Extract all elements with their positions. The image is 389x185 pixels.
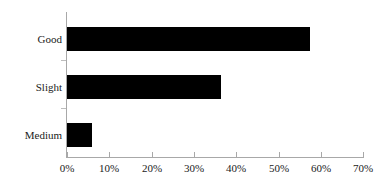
x-axis-tick bbox=[321, 152, 322, 157]
y-axis-tick bbox=[61, 108, 66, 109]
y-axis-label-good: Good bbox=[0, 34, 62, 45]
x-axis-tick-label: 70% bbox=[343, 163, 383, 174]
x-axis-tick-label-text: 20% bbox=[142, 162, 162, 174]
bar-slight bbox=[67, 75, 221, 99]
x-axis-tick bbox=[109, 152, 110, 157]
y-axis-label-text: Slight bbox=[36, 81, 62, 93]
bar-medium bbox=[67, 123, 92, 147]
x-axis-tick-label: 0% bbox=[47, 163, 87, 174]
x-axis-tick bbox=[67, 152, 68, 157]
x-axis-tick bbox=[194, 152, 195, 157]
x-axis-tick bbox=[363, 152, 364, 157]
x-axis-tick-label-text: 10% bbox=[99, 162, 119, 174]
x-axis-tick-label: 60% bbox=[301, 163, 341, 174]
x-axis-tick bbox=[279, 152, 280, 157]
x-axis-tick-label: 10% bbox=[89, 163, 129, 174]
x-axis-tick bbox=[152, 152, 153, 157]
bar-good bbox=[67, 27, 310, 51]
x-axis-tick bbox=[236, 152, 237, 157]
x-axis-tick-label: 40% bbox=[216, 163, 256, 174]
x-axis-tick-label-text: 40% bbox=[226, 162, 246, 174]
y-axis-tick bbox=[61, 60, 66, 61]
x-axis-tick-label-text: 60% bbox=[311, 162, 331, 174]
x-axis-line bbox=[66, 157, 364, 158]
x-axis-tick-label-text: 30% bbox=[184, 162, 204, 174]
y-axis-label-text: Medium bbox=[25, 129, 62, 141]
x-axis-tick-label: 30% bbox=[174, 163, 214, 174]
y-axis-label-slight: Slight bbox=[0, 82, 62, 93]
bar-chart: Good Slight Medium 0% 10% 20% 30% 40% 50… bbox=[0, 0, 389, 185]
x-axis-tick-label-text: 70% bbox=[353, 162, 373, 174]
x-axis-tick-label-text: 0% bbox=[60, 162, 75, 174]
x-axis-tick-label: 50% bbox=[259, 163, 299, 174]
y-axis-label-text: Good bbox=[38, 33, 62, 45]
x-axis-tick-label: 20% bbox=[132, 163, 172, 174]
y-axis-label-medium: Medium bbox=[0, 130, 62, 141]
x-axis-tick-label-text: 50% bbox=[269, 162, 289, 174]
